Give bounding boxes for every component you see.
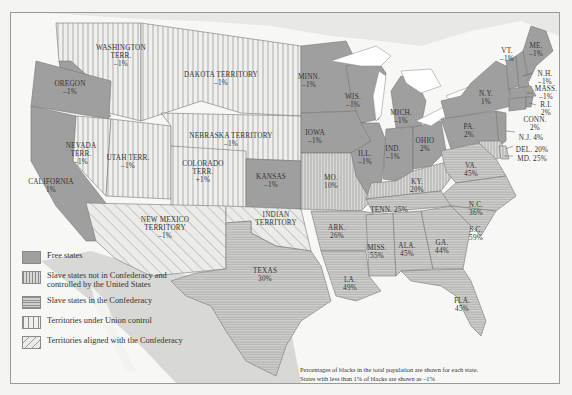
legend-item-free-states: Free states bbox=[22, 251, 197, 264]
region-connecticut[interactable] bbox=[509, 97, 526, 111]
label-virginia: VA.45% bbox=[464, 162, 478, 178]
legend-item-territory-union: Territories under Union control bbox=[22, 316, 197, 329]
label-california: CALIFORNIA1% bbox=[28, 178, 74, 194]
territory-union-swatch bbox=[22, 316, 41, 329]
label-maine: ME.–1% bbox=[529, 42, 543, 58]
label-maryland: MD. 25% bbox=[517, 155, 547, 163]
label-florida: FLA.45% bbox=[454, 297, 470, 313]
label-mississippi: MISS.55% bbox=[367, 244, 387, 260]
map-footnote: Percentages of blacks in the total popul… bbox=[300, 365, 560, 383]
legend-item-territory-confederacy: Territories aligned with the Confederacy bbox=[22, 336, 197, 349]
label-new-jersey: N.J. 4% bbox=[519, 134, 543, 142]
label-louisiana: LA.49% bbox=[343, 276, 357, 292]
map-frame: WASHINGTONTERR.–1% OREGON–1% CALIFORNIA1… bbox=[10, 12, 560, 384]
label-indiana: IND.–1% bbox=[385, 145, 400, 161]
label-new-mexico-territory: NEW MEXICOTERRITORY–1% bbox=[141, 216, 189, 240]
legend-item-slave-union: Slave states not in Confederacy and cont… bbox=[22, 271, 197, 289]
slave-confederacy-swatch bbox=[22, 296, 41, 309]
label-nevada-territory: NEVADATERR.–1% bbox=[66, 142, 97, 166]
label-rhode-island: R.I.2% bbox=[540, 101, 552, 117]
label-delaware: DEL. 20% bbox=[516, 146, 548, 154]
label-ohio: OHIO2% bbox=[416, 137, 435, 153]
legend-item-slave-confederacy: Slave states in the Confederacy bbox=[22, 296, 197, 309]
label-michigan: MICH.–1% bbox=[390, 109, 412, 125]
label-arkansas: ARK.26% bbox=[328, 224, 346, 240]
label-texas: TEXAS30% bbox=[253, 267, 277, 283]
label-wisconsin: WIS.–1% bbox=[345, 93, 361, 109]
territory-confederacy-swatch bbox=[22, 336, 41, 349]
label-illinois: ILL.–1% bbox=[358, 150, 372, 166]
label-tennessee: TENN. 25% bbox=[370, 206, 408, 214]
label-nebraska-territory: NEBRASKA TERRITORY–1% bbox=[189, 132, 272, 148]
label-washington-territory: WASHINGTONTERR.–1% bbox=[96, 44, 146, 68]
label-vermont: VT.–1% bbox=[500, 47, 514, 63]
label-utah-territory: UTAH TERR.–1% bbox=[106, 154, 149, 170]
label-new-hampshire: N.H.–1% bbox=[538, 70, 553, 86]
label-dakota-territory: DAKOTA TERRITORY–1% bbox=[184, 71, 258, 87]
label-kentucky: KY.20% bbox=[410, 178, 424, 194]
label-north-carolina: N.C.36% bbox=[469, 201, 483, 217]
slave-union-swatch bbox=[22, 271, 41, 284]
free-states-swatch bbox=[22, 251, 41, 264]
label-iowa: IOWA–1% bbox=[305, 129, 325, 145]
label-south-carolina: S.C.59% bbox=[469, 226, 483, 242]
label-alabama: ALA.45% bbox=[398, 242, 415, 258]
label-georgia: GA.44% bbox=[435, 239, 449, 255]
label-new-york: N.Y.1% bbox=[479, 90, 493, 106]
label-minnesota: MINN.–1% bbox=[298, 73, 320, 89]
label-oregon: OREGON–1% bbox=[54, 80, 85, 96]
map-legend: Free states Slave states not in Confeder… bbox=[22, 251, 197, 356]
label-indian-territory: INDIANTERRITORY bbox=[255, 211, 297, 227]
label-missouri: MO.10% bbox=[324, 174, 338, 190]
label-kansas: KANSAS–1% bbox=[256, 173, 286, 189]
label-massachusetts: MASS.–1% bbox=[535, 85, 557, 101]
label-pennsylvania: PA.2% bbox=[464, 123, 475, 139]
label-connecticut: CONN.2% bbox=[523, 116, 546, 132]
label-colorado-territory: COLORADOTERR.+1% bbox=[182, 160, 224, 184]
